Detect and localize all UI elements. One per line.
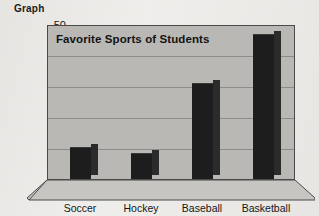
page-title: Graph <box>14 3 44 14</box>
bar-baseball[interactable] <box>192 84 213 179</box>
chart-floor <box>27 180 315 201</box>
bar-basketball-front <box>253 34 274 179</box>
bar-hockey-side <box>152 150 159 175</box>
bar-basketball[interactable] <box>253 35 274 179</box>
bar-soccer[interactable] <box>70 148 91 179</box>
worksheet-page: Graph 50 40 30 20 10 Favorite Sports of … <box>0 0 319 216</box>
bar-chart: 50 40 30 20 10 Favorite Sports of Studen… <box>0 18 319 216</box>
x-axis-label-baseball: Baseball <box>182 202 222 214</box>
bar-basketball-side <box>274 31 281 175</box>
bar-soccer-side <box>91 144 98 175</box>
bar-hockey[interactable] <box>131 154 152 179</box>
bar-soccer-front <box>70 147 91 179</box>
chart-floor-shape <box>27 180 315 201</box>
bar-baseball-front <box>192 83 213 179</box>
x-axis-label-hockey: Hockey <box>123 202 158 214</box>
plot-area: Favorite Sports of Students <box>47 25 295 180</box>
bar-baseball-side <box>213 80 220 175</box>
bar-hockey-front <box>131 153 152 179</box>
x-axis-label-basketball: Basketball <box>242 202 290 214</box>
x-axis-label-soccer: Soccer <box>64 202 97 214</box>
chart-title: Favorite Sports of Students <box>56 33 210 45</box>
